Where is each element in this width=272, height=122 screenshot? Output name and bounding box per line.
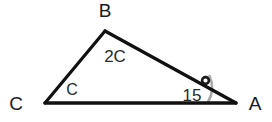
angle-label-b: 2C [104,47,126,66]
angle-label-c: C [66,81,78,98]
vertex-label-c: C [9,93,23,114]
degree-symbol-icon [202,77,209,84]
vertex-label-b: B [99,0,112,21]
geometry-diagram: B C A 2C C 15 [0,0,272,122]
triangle-figure: B C A 2C C 15 [0,0,272,122]
angle-label-a-value: 15 [183,86,202,105]
triangle-side-ba [105,31,236,103]
vertex-label-a: A [249,93,262,114]
